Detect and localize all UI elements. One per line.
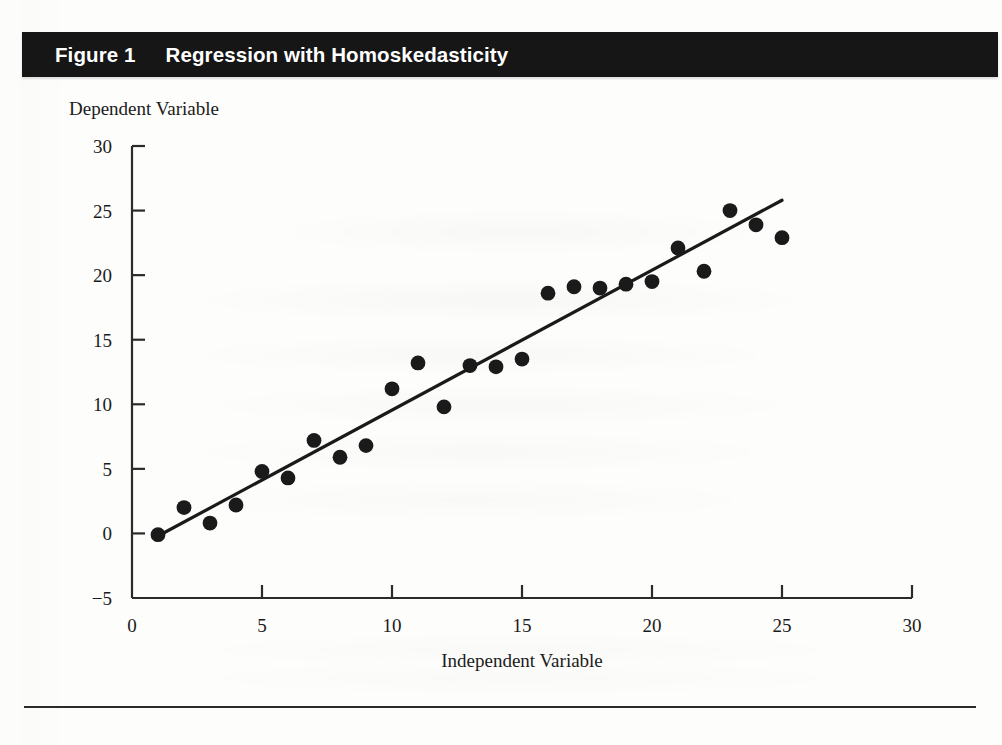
data-point: [151, 527, 166, 542]
y-tick-label: 20: [93, 265, 112, 286]
x-tick-label: 20: [643, 615, 662, 636]
y-axis-label: Dependent Variable: [69, 98, 219, 119]
data-point: [775, 230, 790, 245]
data-point: [749, 217, 764, 232]
data-point: [177, 500, 192, 515]
data-point: [385, 381, 400, 396]
data-point: [697, 264, 712, 279]
figure-title: Regression with Homoskedasticity: [166, 43, 509, 67]
y-tick-label: 30: [93, 136, 112, 157]
data-point: [593, 281, 608, 296]
x-axis-ticks: 051015202530: [127, 585, 921, 636]
y-tick-label: 15: [93, 330, 112, 351]
data-point: [203, 516, 218, 531]
x-tick-label: 0: [127, 615, 137, 636]
y-tick-label: 5: [103, 459, 113, 480]
x-tick-label: 25: [773, 615, 792, 636]
y-tick-label: 10: [93, 394, 112, 415]
y-tick-label: 0: [103, 523, 113, 544]
data-point: [359, 438, 374, 453]
data-point: [541, 286, 556, 301]
data-point: [333, 450, 348, 465]
data-point: [515, 352, 530, 367]
x-tick-label: 30: [903, 615, 922, 636]
y-tick-label: 25: [93, 201, 112, 222]
x-tick-label: 10: [383, 615, 402, 636]
data-point: [567, 279, 582, 294]
data-point: [307, 433, 322, 448]
data-point: [437, 399, 452, 414]
data-point: [255, 464, 270, 479]
x-tick-label: 15: [513, 615, 532, 636]
data-point: [645, 274, 660, 289]
data-point: [281, 470, 296, 485]
chart-container: Dependent Variable −5051015202530 051015…: [0, 77, 1002, 677]
y-tick-label: −5: [92, 588, 112, 609]
x-axis-label: Independent Variable: [441, 650, 603, 671]
data-point: [619, 277, 634, 292]
data-point: [489, 359, 504, 374]
data-point: [671, 241, 686, 256]
data-point: [723, 203, 738, 218]
figure-banner: Figure 1 Regression with Homoskedasticit…: [22, 32, 998, 77]
data-points: [151, 203, 790, 542]
scatter-plot: Dependent Variable −5051015202530 051015…: [0, 77, 1002, 677]
data-point: [411, 356, 426, 371]
footer-rule: [24, 706, 976, 708]
figure-number: Figure 1: [55, 43, 136, 67]
data-point: [229, 498, 244, 513]
x-tick-label: 5: [257, 615, 267, 636]
y-axis-ticks: −5051015202530: [92, 136, 145, 609]
data-point: [463, 358, 478, 373]
